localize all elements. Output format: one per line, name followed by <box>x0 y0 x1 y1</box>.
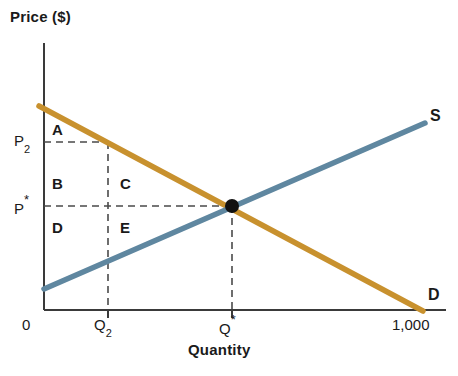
y-tick-label-p2-subscript: 2 <box>24 143 30 155</box>
y-tick-label-pstar: P* <box>14 196 29 217</box>
supply-demand-chart: Price ($) Quantity P2 P* 0 Q2 Q* 1,000 A… <box>0 0 458 376</box>
region-label-d: D <box>52 219 63 236</box>
y-tick-label-p2: P2 <box>14 132 30 152</box>
supply-curve-label: S <box>430 107 441 125</box>
x-tick-label-qstar-superscript: * <box>231 312 236 327</box>
demand-curve-label: D <box>428 286 440 304</box>
x-tick-label-qstar-base: Q <box>219 320 231 337</box>
x-tick-label-q2-subscript: 2 <box>106 327 112 339</box>
equilibrium-point-dot <box>225 199 239 213</box>
region-label-a: A <box>52 121 63 138</box>
region-label-b: B <box>52 175 63 192</box>
x-tick-label-qstar: Q* <box>219 316 236 337</box>
x-tick-label-origin: 0 <box>22 316 30 333</box>
region-label-e: E <box>120 219 130 236</box>
x-axis-title: Quantity <box>188 341 250 358</box>
x-tick-label-max: 1,000 <box>392 316 430 333</box>
y-tick-label-pstar-superscript: * <box>24 192 29 207</box>
y-tick-label-p2-base: P <box>14 132 24 149</box>
region-label-c: C <box>120 175 131 192</box>
x-tick-label-q2-base: Q <box>94 316 106 333</box>
y-tick-label-pstar-base: P <box>14 200 24 217</box>
x-tick-label-q2: Q2 <box>94 316 112 336</box>
y-axis-title: Price ($) <box>10 8 71 25</box>
